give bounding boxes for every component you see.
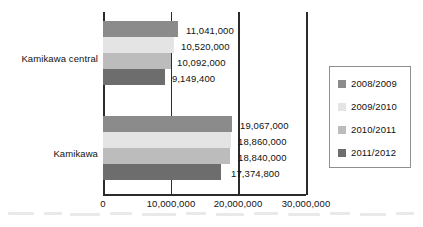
scan-artifact-strip	[0, 208, 423, 227]
legend-item-2011-2012[interactable]: 2011/2012	[338, 147, 396, 158]
legend-swatch-icon-2009-2010	[338, 103, 346, 111]
bar-kamikawa-central-2008-2009	[103, 21, 178, 37]
legend-swatch-icon-2011-2012	[338, 149, 346, 157]
bar-kamikawa-2009-2010	[103, 132, 231, 148]
x-tick-label-10m: 10,000,000	[136, 198, 206, 209]
value-label-kamikawa-central-2010-2011: 10,092,000	[177, 58, 226, 68]
bar-kamikawa-2010-2011	[103, 148, 230, 164]
category-label-kamikawa: Kamikawa	[0, 148, 98, 159]
value-label-kamikawa-2010-2011: 18,840,000	[238, 153, 287, 163]
value-label-kamikawa-2009-2010: 18,860,000	[238, 137, 287, 147]
legend-label-2011-2012: 2011/2012	[351, 148, 396, 158]
legend-swatch-icon-2008-2009	[338, 80, 346, 88]
value-label-kamikawa-central-2009-2010: 10,520,000	[181, 42, 230, 52]
category-label-kamikawa-central: Kamikawa central	[0, 53, 98, 64]
value-label-kamikawa-central-2011-2012: 9,149,400	[172, 74, 215, 84]
legend-item-2010-2011[interactable]: 2010/2011	[338, 124, 396, 135]
legend-label-2008-2009: 2008/2009	[351, 79, 397, 89]
legend-label-2010-2011: 2010/2011	[351, 125, 396, 135]
legend-label-2009-2010: 2009/2010	[351, 102, 397, 112]
legend-item-2008-2009[interactable]: 2008/2009	[338, 78, 397, 89]
x-axis-line	[103, 194, 306, 196]
value-label-kamikawa-2011-2012: 17,374,800	[231, 169, 280, 179]
legend-swatch-icon-2010-2011	[338, 126, 346, 134]
bar-kamikawa-central-2010-2011	[103, 53, 171, 69]
legend: 2008/2009 2009/2010 2010/2011 2011/2012	[329, 66, 411, 168]
gridline-30m	[306, 12, 308, 195]
value-label-kamikawa-2008-2009: 19,067,000	[240, 121, 289, 131]
bar-kamikawa-central-2011-2012	[103, 69, 165, 85]
x-tick-label-20m: 20,000,000	[203, 198, 273, 209]
legend-item-2009-2010[interactable]: 2009/2010	[338, 101, 397, 112]
x-tick-label-30m: 30,000,000	[271, 198, 341, 209]
bar-kamikawa-central-2009-2010	[103, 37, 174, 53]
x-tick-label-0: 0	[83, 198, 123, 209]
value-label-kamikawa-central-2008-2009: 11,041,000	[186, 26, 234, 36]
bar-kamikawa-2011-2012	[103, 164, 221, 180]
bar-kamikawa-2008-2009	[103, 116, 232, 132]
bar-chart: Kamikawa central Kamikawa 11,041,000 10,…	[0, 0, 423, 227]
